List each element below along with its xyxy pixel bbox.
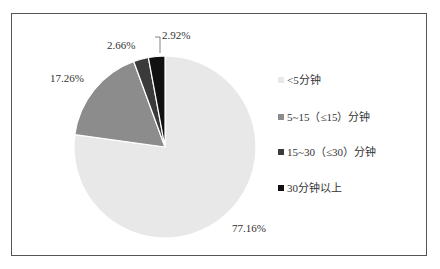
- slice-label-5-15: 17.26%: [50, 72, 84, 84]
- legend-swatch: [278, 149, 284, 155]
- legend-item-5-15: 5~15（≤15）分钟: [278, 111, 371, 123]
- legend-label: <5分钟: [287, 74, 321, 86]
- slice-label-15-30: 2.66%: [107, 39, 135, 51]
- slice-label-30plus: 2.92%: [162, 29, 190, 41]
- slice-label-lt5: 77.16%: [232, 222, 266, 234]
- leader-line: [155, 37, 160, 53]
- legend-label: 30分钟以上: [287, 182, 342, 194]
- legend-swatch: [278, 185, 284, 191]
- legend-item-30plus: 30分钟以上: [278, 182, 342, 194]
- legend-label: 15~30（≤30）分钟: [287, 146, 376, 158]
- legend-swatch: [278, 114, 284, 120]
- pie-chart: [0, 0, 440, 269]
- legend-label: 5~15（≤15）分钟: [287, 111, 371, 123]
- legend-item-15-30: 15~30（≤30）分钟: [278, 146, 376, 158]
- pie-slices: [74, 56, 256, 238]
- legend-item-lt5: <5分钟: [278, 74, 321, 86]
- legend-swatch: [278, 77, 284, 83]
